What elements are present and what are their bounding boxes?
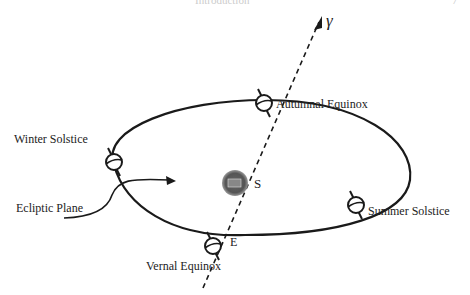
arrow-head-icon [314,16,322,30]
earth-winter-icon [106,148,122,176]
earth-summer-icon [348,191,364,219]
winter-solstice-label: Winter Solstice [14,133,88,145]
summer-solstice-label: Summer Solstice [368,205,450,217]
vernal-equinox-label: Vernal Equinox [146,260,221,272]
orbit-path [112,100,410,235]
ecliptic-plane-label: Ecliptic Plane [16,202,83,214]
earth-vernal-icon [205,232,221,260]
earth-autumnal-icon [256,89,272,117]
earth-label: E [230,236,237,248]
autumnal-equinox-label: Autumnal Equinox [276,98,368,110]
sun-label: S [254,177,261,190]
orbit-drawing [0,0,470,295]
orbit-diagram: Introduction 7 [0,0,470,295]
gamma-label: γ [326,12,333,29]
